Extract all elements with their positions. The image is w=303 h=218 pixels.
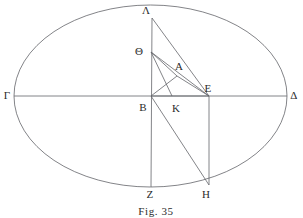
segment-theta-k bbox=[151, 52, 172, 96]
vertex-label-a: A bbox=[175, 61, 183, 72]
figure-caption: Fig. 35 bbox=[138, 205, 173, 217]
vertex-label-z: Z bbox=[147, 189, 154, 200]
vertex-label-lambda: Λ bbox=[142, 5, 150, 16]
vertex-label-h: H bbox=[202, 189, 210, 200]
figure-canvas bbox=[0, 0, 303, 218]
geometry-figure: ΛΘAΓΔBKEZH Fig. 35 bbox=[0, 0, 303, 218]
vertex-label-k: K bbox=[172, 103, 180, 114]
vertex-label-b: B bbox=[139, 102, 147, 113]
segment-lambda-z-axis bbox=[151, 18, 152, 187]
vertex-label-theta: Θ bbox=[135, 46, 143, 57]
vertex-label-gamma: Γ bbox=[4, 90, 11, 101]
vertex-label-delta: Δ bbox=[290, 90, 297, 101]
segments-layer bbox=[14, 18, 287, 187]
vertex-label-e: E bbox=[205, 83, 212, 94]
segment-theta-a bbox=[151, 52, 177, 76]
segment-lambda-e bbox=[152, 18, 209, 96]
